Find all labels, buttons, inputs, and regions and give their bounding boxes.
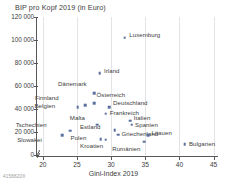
x-tick [214,156,215,160]
data-point-label: Malta [70,115,85,121]
data-point [129,120,132,123]
gridline-vertical [43,17,44,155]
data-point-label: Spanien [135,122,158,128]
scatter-chart: BIP pro Kopf 2019 (in Euro) LuxemburgIrl… [0,0,227,188]
plot-area: LuxemburgIrlandDänemarkÖsterreichFinnlan… [36,17,217,155]
source-code: 4158820X [3,174,26,179]
data-point [104,139,107,142]
chart-title: BIP pro Kopf 2019 (in Euro) [15,3,106,12]
data-point [104,112,107,115]
data-point-label: Litauen [152,130,172,136]
data-point [117,134,120,137]
data-point [130,123,133,126]
x-axis-label: Gini-Index 2019 [0,170,227,177]
data-point [147,134,150,137]
x-tick [111,156,112,160]
data-point-label: Polen [71,135,87,141]
x-tick-label: 45 [210,161,217,168]
y-tick [34,63,38,64]
axis-break-mark [36,150,41,158]
data-point [93,92,96,95]
y-tick-label: 120 000 [11,14,34,20]
y-tick-label: 0 [30,152,34,158]
y-tick-label: 80 000 [15,60,34,66]
y-tick-label: 60 000 [15,83,34,89]
gridline-vertical [179,17,180,155]
x-tick-label: 20 [39,161,46,168]
y-tick [34,17,38,18]
y-tick-label: 20 000 [15,129,34,135]
data-point-label: Finnland [35,95,59,101]
data-point-label: Deutschland [113,100,147,106]
x-tick [179,156,180,160]
y-tick [34,109,38,110]
data-point [76,106,79,109]
data-point [61,134,64,137]
data-point-label: Rumänien [112,146,140,152]
data-point [184,143,187,146]
y-tick-label: 40 000 [15,106,34,112]
data-point [113,129,116,132]
data-point-label: Irland [104,68,120,74]
data-point-label: Luxemburg [129,32,160,38]
x-tick-label: 30 [107,161,114,168]
data-point-label: Estland [80,124,101,130]
y-tick-label: 100 000 [11,37,34,43]
data-point [93,102,96,105]
x-axis-line [36,156,218,157]
data-point [100,138,103,141]
data-point [84,104,87,107]
x-tick [77,156,78,160]
gridline-vertical [214,17,215,155]
data-point-label: Österreich [97,92,126,98]
y-axis-line [36,17,37,157]
y-tick [34,132,38,133]
data-point [69,130,72,133]
data-point-label: Slowakei [17,137,42,143]
data-point [143,140,146,143]
x-tick-label: 40 [176,161,183,168]
data-point [98,72,101,75]
y-tick [34,86,38,87]
gridline-vertical [111,17,112,155]
x-tick [145,156,146,160]
data-point-label: Griechenland [121,131,145,137]
data-point-label: Kroatien [80,143,103,149]
data-point [123,36,126,39]
y-tick [34,155,38,156]
x-tick [43,156,44,160]
data-point-label: Dänemark [58,81,87,87]
data-point-label: Bulgarien [189,141,215,147]
x-tick-label: 35 [142,161,149,168]
y-tick [34,40,38,41]
x-tick-label: 25 [73,161,80,168]
